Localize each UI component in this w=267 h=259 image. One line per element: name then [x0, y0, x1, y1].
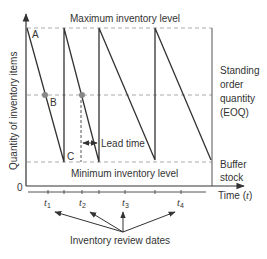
review-dates-label: Inventory review dates: [70, 235, 170, 246]
max-level-label: Maximum inventory level: [70, 13, 180, 24]
review-arrow-1: [55, 212, 123, 232]
review-arrow-2: [90, 212, 123, 232]
lead-time-label: Lead time: [101, 138, 145, 149]
standing-order-label-4: (EOQ): [220, 107, 249, 118]
review-tick-label-3: t3: [122, 197, 129, 209]
buffer-stock-label-2: stock: [220, 172, 244, 183]
origin-label: 0: [17, 182, 23, 193]
review-tick-label-4: t4: [177, 197, 184, 209]
buffer-stock-label-1: Buffer: [220, 159, 247, 170]
review-tick-label-1: t1: [44, 197, 51, 209]
min-level-label: Minimum inventory level: [71, 168, 178, 179]
point-b-label: B: [50, 97, 57, 108]
point-a-label: A: [32, 29, 39, 40]
review-tick-label-2: t2: [79, 197, 86, 209]
reorder-point-2: [79, 92, 85, 98]
inventory-diagram: Maximum inventory level Minimum inventor…: [0, 0, 267, 259]
reorder-point-b: [42, 92, 48, 98]
point-c-label: C: [67, 151, 74, 162]
standing-order-label-1: Standing: [220, 65, 259, 76]
standing-order-label-3: quantity: [220, 93, 255, 104]
x-axis-label: Time (t): [218, 190, 252, 201]
review-arrow-4: [123, 212, 175, 232]
standing-order-label-2: order: [220, 79, 244, 90]
y-axis-label: Quantity of inventory items: [8, 52, 19, 170]
